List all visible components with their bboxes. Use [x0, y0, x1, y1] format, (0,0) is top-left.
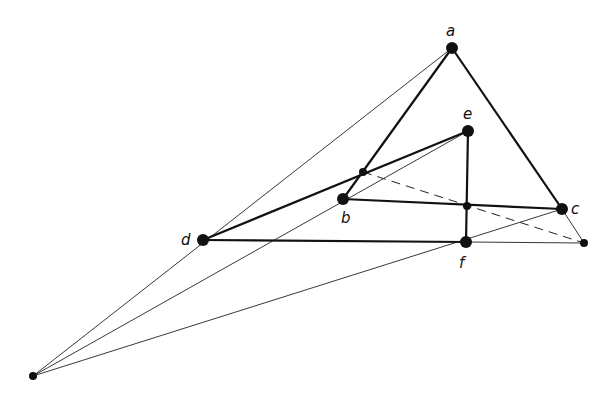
label-a: a	[446, 22, 455, 40]
point-a	[446, 42, 458, 54]
thin-line-O-c	[33, 209, 562, 376]
point-X1	[359, 168, 367, 176]
edge-d-f	[203, 240, 466, 242]
point-d	[197, 234, 209, 246]
label-f: f	[459, 254, 467, 272]
point-b	[337, 193, 349, 205]
label-d: d	[181, 231, 191, 249]
point-O	[29, 372, 37, 380]
thin-line-O-e	[33, 131, 468, 376]
thin-line-O-a	[33, 48, 452, 376]
point-e	[462, 125, 474, 137]
edge-e-f	[466, 131, 468, 242]
label-c: c	[571, 200, 580, 218]
point-c	[556, 203, 568, 215]
thin-line-f-P	[466, 242, 584, 243]
edge-d-e	[203, 131, 468, 240]
perspective-lines	[33, 48, 584, 376]
point-P	[580, 239, 588, 247]
vertices	[29, 42, 588, 380]
label-b: b	[341, 209, 351, 227]
point-f	[460, 236, 472, 248]
triangle-edges	[203, 48, 562, 242]
point-X2	[463, 202, 471, 210]
desargues-diagram: abcdef	[0, 0, 607, 416]
label-e: e	[463, 105, 472, 123]
